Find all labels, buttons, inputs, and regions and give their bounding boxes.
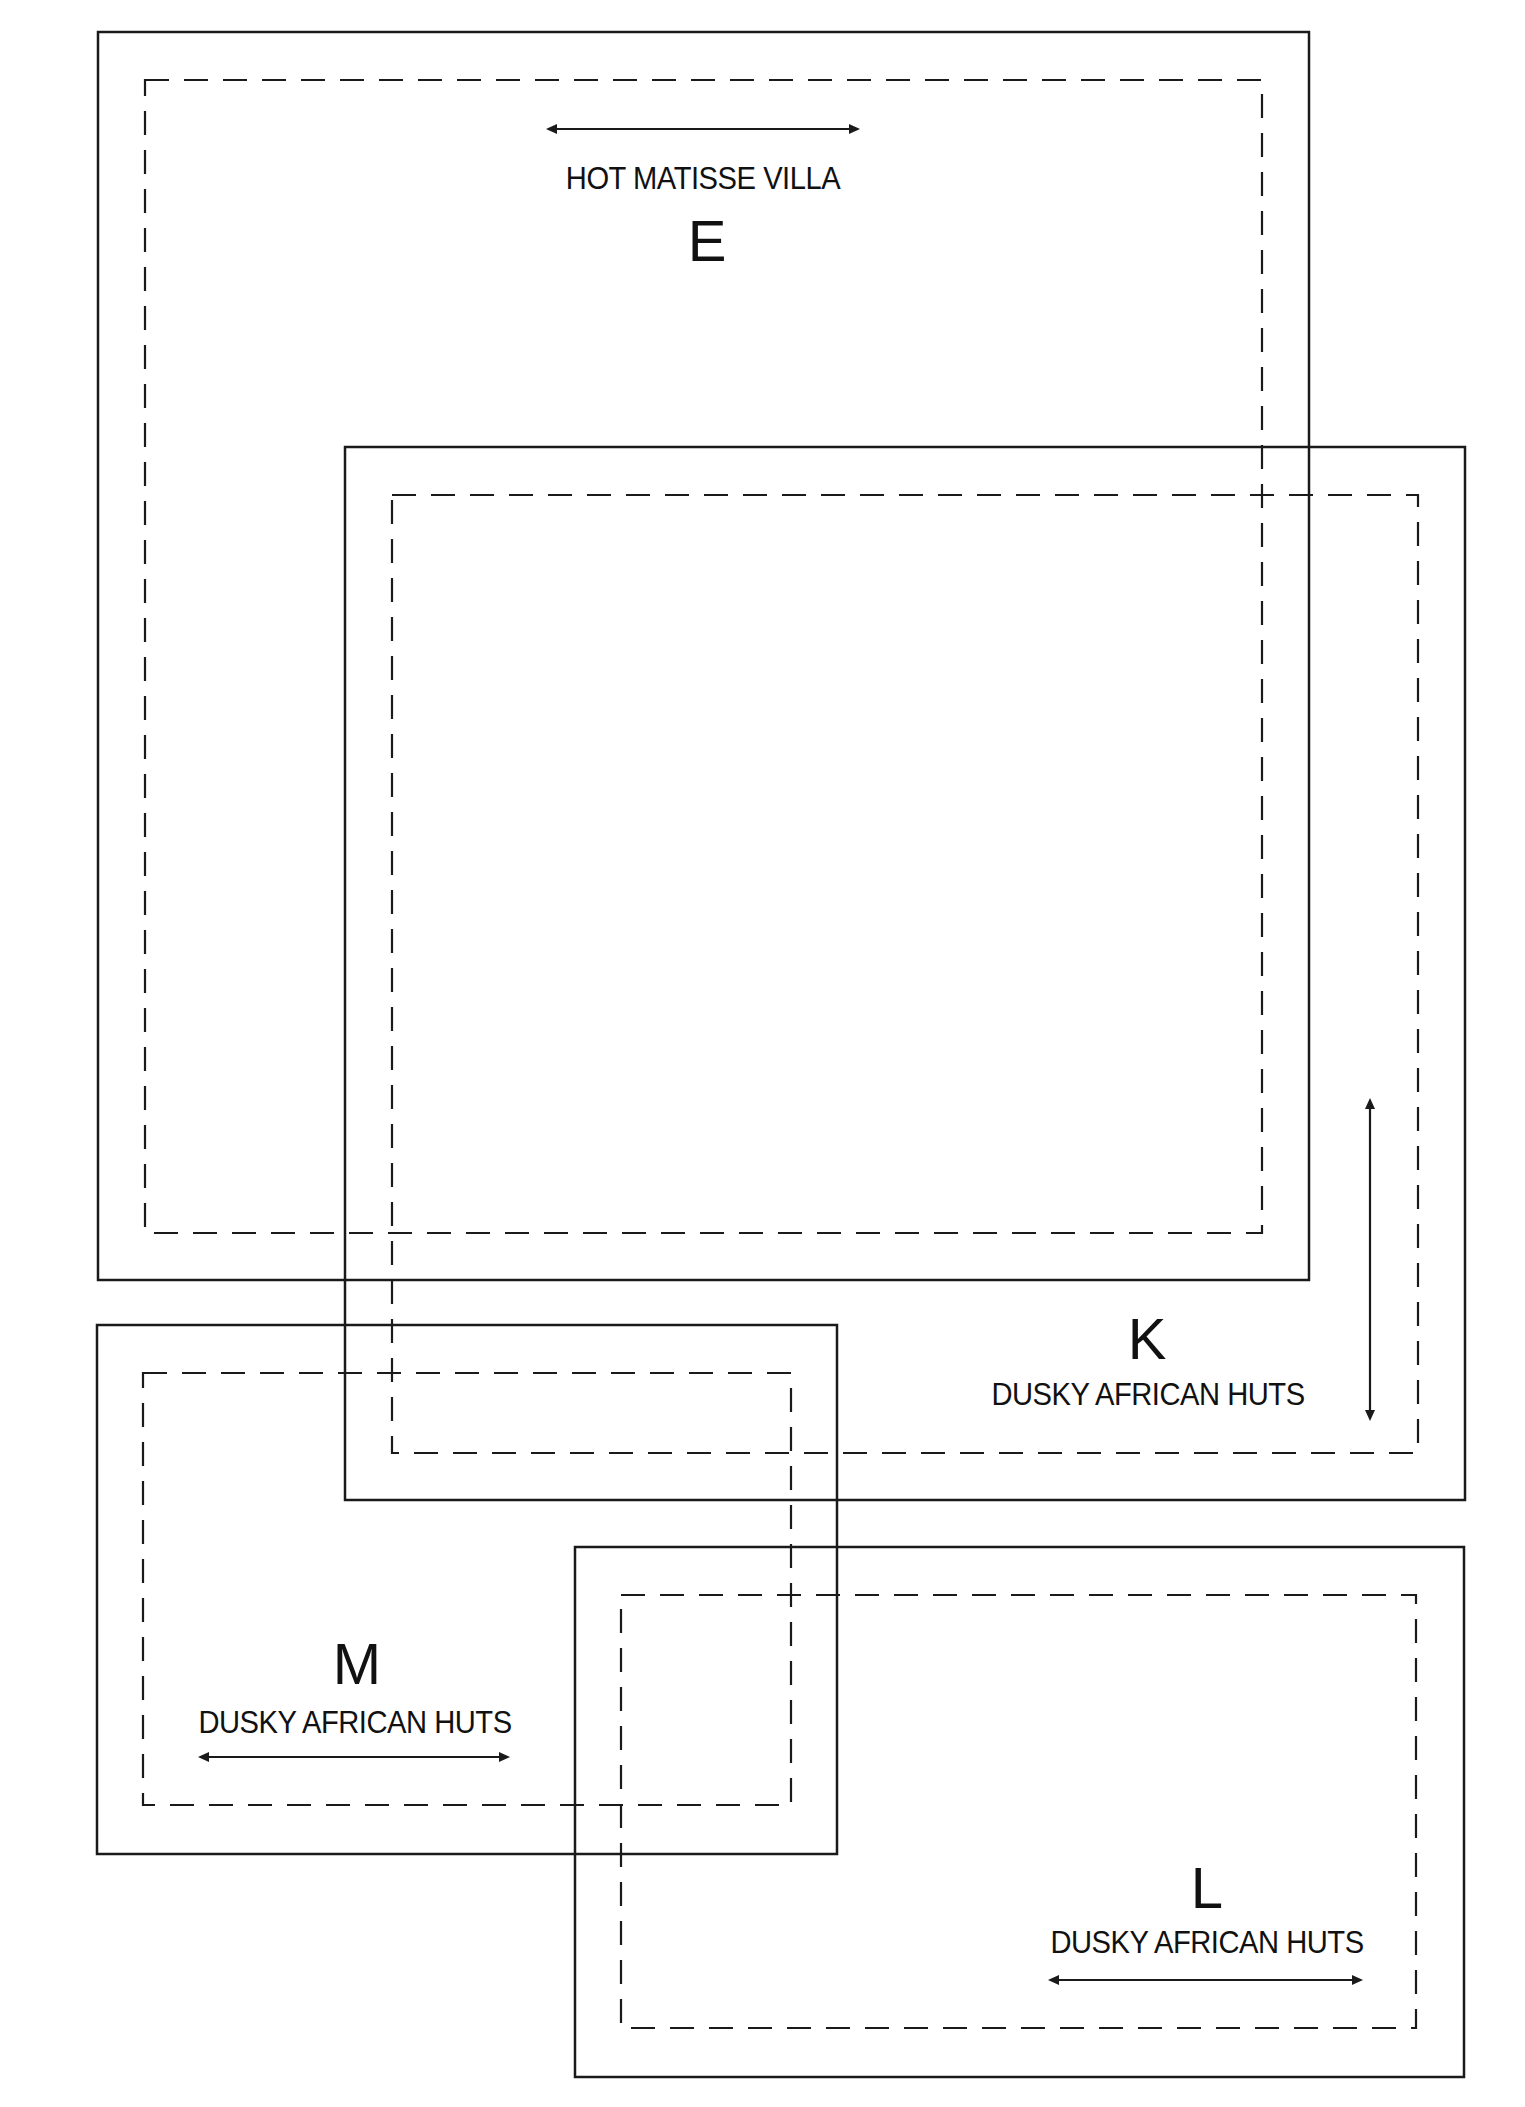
region-e-letter: E — [688, 212, 727, 270]
regions-layer — [97, 32, 1465, 2077]
region-m — [97, 1325, 837, 1854]
region-l-caption: DUSKY AFRICAN HUTS — [1050, 1927, 1363, 1958]
region-l — [575, 1547, 1464, 2077]
region-m-letter: M — [333, 1635, 381, 1693]
region-e-caption: HOT MATISSE VILLA — [566, 163, 840, 194]
double-arrow-icon — [1048, 1975, 1363, 1985]
region-l-letter: L — [1191, 1859, 1223, 1917]
region-m-caption: DUSKY AFRICAN HUTS — [198, 1707, 511, 1738]
double-arrow-icon — [546, 124, 860, 134]
region-k-caption: DUSKY AFRICAN HUTS — [991, 1379, 1304, 1410]
layout-diagram — [0, 0, 1525, 2107]
region-m-inner-dashed-border — [143, 1373, 791, 1805]
region-l-outer-border — [575, 1547, 1464, 2077]
region-k-inner-dashed-border — [392, 495, 1418, 1453]
region-k-letter: K — [1128, 1310, 1167, 1368]
double-arrow-icon — [198, 1752, 510, 1762]
region-m-outer-border — [97, 1325, 837, 1854]
region-k — [345, 447, 1465, 1500]
double-arrow-icon — [1365, 1098, 1375, 1421]
region-k-outer-border — [345, 447, 1465, 1500]
region-l-inner-dashed-border — [621, 1595, 1416, 2028]
